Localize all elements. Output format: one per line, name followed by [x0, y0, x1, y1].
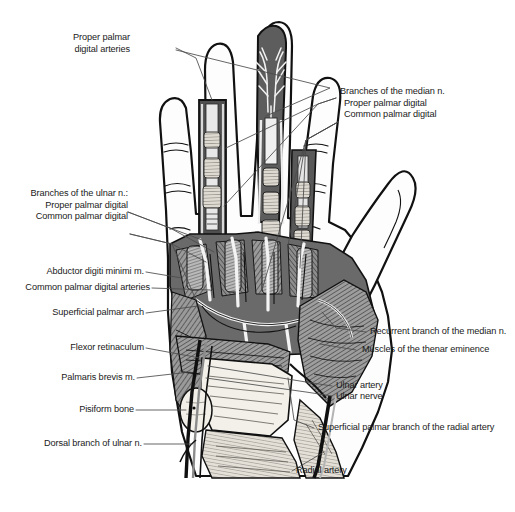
label-pisiform-bone: Pisiform bone	[2, 404, 134, 416]
label-palmaris-brevis: Palmaris brevis m.	[2, 372, 135, 384]
label-muscles-of-the-thenar-eminence: Muscles of the thenar eminence	[362, 344, 489, 356]
anatomy-figure: Proper palmar digital arteries Branches …	[0, 0, 515, 512]
label-superficial-palmar-branch-of-radial-artery: Superficial palmar branch of the radial …	[318, 422, 494, 434]
label-item-common-palmar-digital: Common palmar digital	[340, 109, 445, 121]
label-superficial-palmar-arch: Superficial palmar arch	[2, 307, 144, 319]
hand-illustration-svg	[0, 0, 515, 512]
label-heading: Branches of the median n.	[340, 86, 445, 98]
label-recurrent-branch-of-median-nerve: Recurrent branch of the median n.	[370, 326, 506, 338]
label-abductor-digiti-minimi: Abductor digiti minimi m.	[2, 266, 144, 278]
label-radial-artery: Radial artery	[296, 465, 347, 477]
label-proper-palmar-digital-arteries: Proper palmar digital arteries	[2, 32, 130, 55]
label-branches-of-the-ulnar-nerve: Branches of the ulnar n.: Proper palmar …	[2, 188, 128, 223]
label-common-palmar-digital-arteries: Common palmar digital arteries	[2, 282, 150, 294]
index-pulleys	[203, 132, 221, 208]
label-branches-of-the-median-nerve: Branches of the median n. Proper palmar …	[340, 86, 445, 121]
label-ulnar-artery: Ulnar artery	[336, 380, 383, 392]
label-item-proper-palmar-digital: Proper palmar digital	[340, 98, 445, 110]
label-ulnar-nerve: Ulnar nerve	[336, 391, 382, 403]
label-heading: Branches of the ulnar n.:	[2, 188, 128, 200]
index-finger-dissection	[199, 100, 226, 236]
label-dorsal-branch-of-ulnar-nerve: Dorsal branch of ulnar n.	[2, 438, 142, 450]
label-line: digital arteries	[2, 44, 130, 56]
label-flexor-retinaculum: Flexor retinaculum	[2, 342, 144, 354]
label-item-common-palmar-digital: Common palmar digital	[2, 211, 128, 223]
label-line: Proper palmar	[2, 32, 130, 44]
flexor-retinaculum-plate	[200, 358, 292, 436]
label-item-proper-palmar-digital: Proper palmar digital	[2, 200, 128, 212]
ring-pulleys	[294, 182, 310, 248]
